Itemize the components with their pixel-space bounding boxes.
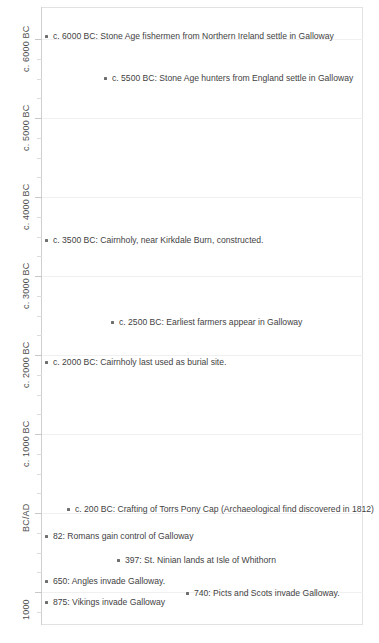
tick-major-6000bc <box>35 39 42 40</box>
timeline-event[interactable]: 740: Picts and Scots invade Galloway. <box>186 588 340 598</box>
event-marker-icon <box>104 77 107 80</box>
tick-minor <box>37 138 42 139</box>
tick-minor <box>37 454 42 455</box>
event-marker-icon <box>45 361 48 364</box>
tick-minor <box>37 256 42 257</box>
tick-minor <box>37 98 42 99</box>
timeline-event[interactable]: c. 2000 BC: Cairnholy last used as buria… <box>45 357 226 367</box>
event-marker-icon <box>45 239 48 242</box>
tick-minor <box>37 237 42 238</box>
tick-major-bcad <box>35 513 42 514</box>
event-marker-icon <box>186 592 189 595</box>
timeline-event[interactable]: c. 3500 BC: Cairnholy, near Kirkdale Bur… <box>45 235 264 245</box>
timeline-event[interactable]: 650: Angles invade Galloway. <box>45 576 165 586</box>
tick-major-1000ad <box>35 592 42 593</box>
tick-minor <box>37 79 42 80</box>
timeline-event[interactable]: c. 2500 BC: Earliest farmers appear in G… <box>111 317 302 327</box>
tick-minor <box>37 296 42 297</box>
timeline-event[interactable]: c. 5500 BC: Stone Age hunters from Engla… <box>104 73 353 83</box>
timeline-event[interactable]: 82: Romans gain control of Galloway <box>45 531 193 541</box>
event-marker-icon <box>111 321 114 324</box>
tick-minor <box>37 177 42 178</box>
timeline-event[interactable]: c. 6000 BC: Stone Age fishermen from Nor… <box>45 31 334 41</box>
event-marker-icon <box>67 508 70 511</box>
tick-minor <box>37 335 42 336</box>
gridline-1000bc <box>41 434 363 435</box>
tick-minor <box>37 217 42 218</box>
tick-major-3000bc <box>35 276 42 277</box>
tick-minor <box>37 59 42 60</box>
event-marker-icon <box>45 580 48 583</box>
tick-minor <box>37 375 42 376</box>
event-marker-icon <box>45 35 48 38</box>
timeline-event[interactable]: 397: St. Ninian lands at Isle of Whithor… <box>117 555 276 565</box>
gridline-5000bc <box>41 118 363 119</box>
gridline-4000bc <box>41 197 363 198</box>
tick-minor <box>37 414 42 415</box>
tick-minor <box>37 316 42 317</box>
tick-major-2000bc <box>35 355 42 356</box>
gridline-3000bc <box>41 276 363 277</box>
tick-minor <box>37 395 42 396</box>
tick-minor <box>37 493 42 494</box>
gridline-2000bc <box>41 355 363 356</box>
timeline-chart: c. 6000 BC c. 5000 BC c. 4000 BC c. 3000… <box>0 0 379 643</box>
tick-minor <box>37 158 42 159</box>
event-marker-icon <box>45 535 48 538</box>
tick-major-5000bc <box>35 118 42 119</box>
timeline-event[interactable]: c. 200 BC: Crafting of Torrs Pony Cap (A… <box>67 504 374 514</box>
tick-minor <box>37 474 42 475</box>
tick-minor <box>37 533 42 534</box>
tick-major-1000bc <box>35 434 42 435</box>
tick-major-4000bc <box>35 197 42 198</box>
tick-minor <box>37 553 42 554</box>
event-marker-icon <box>45 601 48 604</box>
tick-minor <box>37 572 42 573</box>
event-marker-icon <box>117 559 120 562</box>
timeline-event[interactable]: 875: Vikings invade Galloway <box>45 597 165 607</box>
tick-minor <box>37 612 42 613</box>
